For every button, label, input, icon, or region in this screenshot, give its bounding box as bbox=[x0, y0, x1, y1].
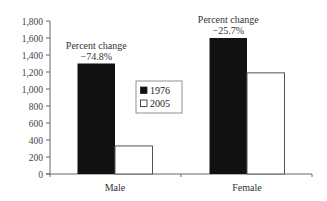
bar-female-2005 bbox=[247, 73, 285, 174]
legend: 19762005 bbox=[136, 81, 182, 113]
y-tick-label: 200 bbox=[29, 153, 44, 163]
percent-change-label: Percent change bbox=[66, 40, 127, 51]
x-axis: MaleFemale bbox=[46, 174, 312, 193]
y-axis: 02004006008001,0001,2001,4001,6001,800 bbox=[22, 17, 50, 180]
bar-chart: 02004006008001,0001,2001,4001,6001,800 M… bbox=[0, 0, 327, 201]
y-tick-label: 1,600 bbox=[22, 34, 44, 44]
bar-male-1976 bbox=[78, 64, 116, 175]
y-tick-label: 400 bbox=[29, 136, 44, 146]
percent-change-label: Percent change bbox=[198, 14, 259, 25]
y-tick-label: 1,400 bbox=[22, 51, 44, 61]
y-tick-label: 800 bbox=[29, 102, 44, 112]
x-category-label: Male bbox=[105, 182, 126, 193]
legend-swatch-1976 bbox=[141, 87, 148, 94]
y-tick-label: 0 bbox=[38, 170, 43, 180]
percent-change-value: −25.7% bbox=[213, 25, 244, 36]
y-tick-label: 1,800 bbox=[22, 17, 44, 27]
legend-swatch-2005 bbox=[141, 100, 148, 107]
y-tick-label: 600 bbox=[29, 119, 44, 129]
x-category-label: Female bbox=[232, 182, 262, 193]
bar-male-2005 bbox=[115, 146, 153, 174]
percent-change-value: −74.8% bbox=[81, 51, 112, 62]
y-tick-label: 1,000 bbox=[22, 85, 44, 95]
y-tick-label: 1,200 bbox=[22, 68, 44, 78]
bar-female-1976 bbox=[210, 38, 248, 174]
legend-label-1976: 1976 bbox=[150, 85, 170, 96]
legend-label-2005: 2005 bbox=[150, 98, 170, 109]
